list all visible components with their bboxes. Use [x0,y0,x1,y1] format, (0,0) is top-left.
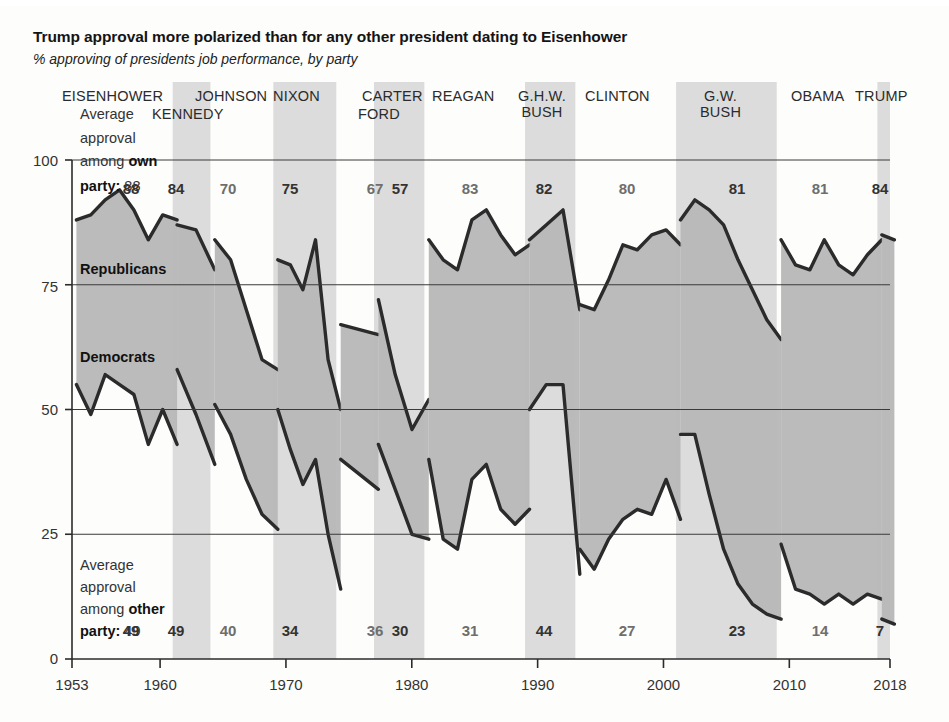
note-emphasis: party: [80,623,120,639]
chart-page: Trump approval more polarized than for a… [0,0,949,722]
avg-own-note-line2: approval [80,130,136,146]
party-gap-area [215,240,278,530]
party-gap-area [580,230,681,569]
note-emphasis: party: [80,178,120,194]
other-party-avg-clinton: 27 [607,622,647,639]
president-label-line: BUSH [518,104,566,120]
president-label-trump: TRUMP [855,88,908,104]
other-party-avg-nixon: 34 [270,622,310,639]
own-party-avg-nixon: 75 [270,180,310,197]
president-label-g-w-bush: G.W.BUSH [700,88,741,120]
y-axis-label-75: 75 [14,278,58,295]
avg-other-note-line2: approval [80,579,136,595]
own-party-avg-kennedy: 84 [156,180,196,197]
note-emphasis: other [128,601,164,617]
president-label-nixon: NIXON [273,88,320,104]
note-text: among [80,153,128,169]
president-label-line: CARTER [362,88,423,104]
president-label-line: FORD [358,106,400,122]
note-text: Average [80,106,134,122]
avg-own-note-line1: Average [80,106,134,122]
other-party-avg-reagan: 31 [450,622,490,639]
avg-other-note-line3: among other [80,601,165,617]
other-party-avg-carter: 30 [380,622,420,639]
avg-own-note-line3: among own [80,153,157,169]
avg-own-note-line4: party: 88 [80,178,140,194]
own-party-avg-reagan: 83 [450,180,490,197]
own-party-avg-g-w-bush: 81 [717,180,757,197]
series-label-democrats: Democrats [80,349,155,365]
y-axis-label-50: 50 [14,401,58,418]
note-text: approval [80,579,136,595]
president-label-obama: OBAMA [791,88,844,104]
president-label-line: G.H.W. [518,88,566,104]
president-label-kennedy: KENNEDY [152,106,224,122]
other-party-avg-johnson: 40 [208,622,248,639]
other-party-avg-g-w-bush: 23 [717,622,757,639]
president-label-line: BUSH [700,104,741,120]
own-party-avg-johnson: 70 [208,180,248,197]
x-axis-label-2018: 2018 [862,676,918,693]
president-label-line: OBAMA [791,88,844,104]
own-party-avg-clinton: 80 [607,180,647,197]
other-party-avg-trump: 7 [860,622,900,639]
president-label-carter: CARTER [362,88,423,104]
president-label-line: G.W. [700,88,741,104]
y-axis-label-0: 0 [14,650,58,667]
avg-other-note-line4: party: 49 [80,623,140,639]
own-party-avg-trump: 84 [860,180,900,197]
president-label-line: EISENHOWER [62,88,163,104]
president-label-line: KENNEDY [152,106,224,122]
party-gap-area [781,240,882,604]
note-value: 49 [120,623,140,639]
president-label-line: JOHNSON [195,88,267,104]
president-label-ford: FORD [358,106,400,122]
x-axis-label-1953: 1953 [44,676,100,693]
note-value: 88 [120,178,140,194]
president-label-eisenhower: EISENHOWER [62,88,163,104]
x-axis-label-1970: 1970 [258,676,314,693]
own-party-avg-carter: 57 [380,180,420,197]
president-label-line: TRUMP [855,88,908,104]
president-label-johnson: JOHNSON [195,88,267,104]
note-text: Average [80,557,134,573]
president-label-clinton: CLINTON [585,88,650,104]
party-gap-area [882,235,895,624]
own-party-avg-obama: 81 [800,180,840,197]
x-axis-label-1960: 1960 [132,676,188,693]
x-axis-label-1990: 1990 [510,676,566,693]
party-gap-area [76,190,177,445]
series-label-republicans: Republicans [80,261,166,277]
president-label-reagan: REAGAN [432,88,494,104]
y-axis-label-100: 100 [14,152,58,169]
x-axis-label-2010: 2010 [761,676,817,693]
note-text: among [80,601,128,617]
president-label-line: CLINTON [585,88,650,104]
x-axis-label-2000: 2000 [635,676,691,693]
other-party-avg-g-h-w-bush: 44 [524,622,564,639]
own-party-avg-g-h-w-bush: 82 [524,180,564,197]
avg-other-note-line1: Average [80,557,134,573]
x-axis-label-1980: 1980 [384,676,440,693]
note-emphasis: own [128,153,157,169]
other-party-avg-kennedy: 49 [156,622,196,639]
president-label-line: REAGAN [432,88,494,104]
note-text: approval [80,130,136,146]
other-party-avg-obama: 14 [800,622,840,639]
president-label-line: NIXON [273,88,320,104]
y-axis-label-25: 25 [14,525,58,542]
president-label-g-h-w-bush: G.H.W.BUSH [518,88,566,120]
